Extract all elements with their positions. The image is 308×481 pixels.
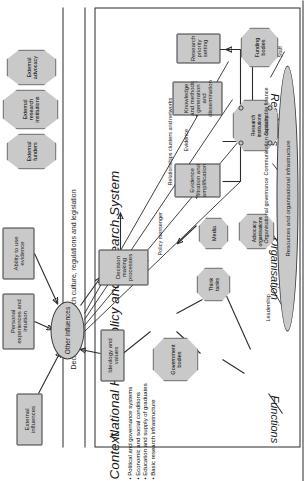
node-external-influences: External influences <box>16 393 42 445</box>
row-label-functions: Functions <box>268 395 280 443</box>
node-research-priority-setting: Research priority setting <box>176 33 220 63</box>
unit-dot <box>238 105 243 110</box>
context-label: Context <box>106 432 121 479</box>
node-evidence-filtration: Evidence filtration and amplification <box>174 163 220 197</box>
node-label: External research institutions <box>21 92 39 126</box>
node-other-influences: Other influences <box>50 301 84 359</box>
label-evidence: Evidence <box>182 128 188 151</box>
label-leadership: Leadership <box>264 294 270 321</box>
node-label: Media <box>210 226 216 241</box>
culture-divider-top <box>62 7 63 447</box>
node-label: Think tanks <box>207 270 219 298</box>
label-sustainable-finance: Sustainable finance <box>262 87 268 135</box>
page-title: National Health Policy and Research Syst… <box>106 170 121 439</box>
diagram-canvas: National Health Policy and Research Syst… <box>0 0 308 481</box>
node-ideology-and-values: Ideology and values <box>100 329 124 381</box>
label-relationships-clusters: Relationships clusters and networks <box>166 97 172 185</box>
node-label: Funding bodies <box>253 30 265 64</box>
node-personal-experiences: Personal experiences and intuition <box>2 293 34 349</box>
node-label: External advocacy <box>25 52 37 82</box>
node-knowledge-generation: Knowledge and methods generation and dis… <box>172 81 222 115</box>
node-decision-making-processes: Decision making processes <box>98 249 148 285</box>
label-staff: Staff <box>276 46 282 57</box>
node-ability-to-use-evidence: Ability to use evidence <box>2 227 34 279</box>
node-government-bodies: Government bodies <box>152 337 198 381</box>
node-label: Government bodies <box>169 340 181 378</box>
node-funding-bodies: Funding bodies <box>240 27 278 67</box>
node-think-tanks: Think tanks <box>196 267 230 301</box>
label-organisational-governance: Organisational governance <box>262 177 268 243</box>
node-external-research-institutions: External research institutions <box>2 89 58 129</box>
node-advocacy-organisations: Advocacy organisations <box>238 213 274 249</box>
node-external-advocacy: External advocacy <box>6 49 56 85</box>
node-research-institutions-group: Research institutions <box>232 99 278 151</box>
figure-stage: National Health Policy and Research Syst… <box>0 0 308 481</box>
node-label: Research institutions <box>249 100 261 150</box>
node-label: Advocacy organisations <box>250 216 262 246</box>
node-resources-infrastructure: Resources and organisational infrastruct… <box>276 65 298 331</box>
label-policy-messenger: Policy messenger <box>156 212 162 255</box>
culture-divider-bottom <box>84 7 85 447</box>
node-external-funders: External funders <box>6 133 56 169</box>
row-label-divider <box>302 0 303 481</box>
unit-dot <box>238 140 243 145</box>
node-label: External funders <box>25 136 37 166</box>
